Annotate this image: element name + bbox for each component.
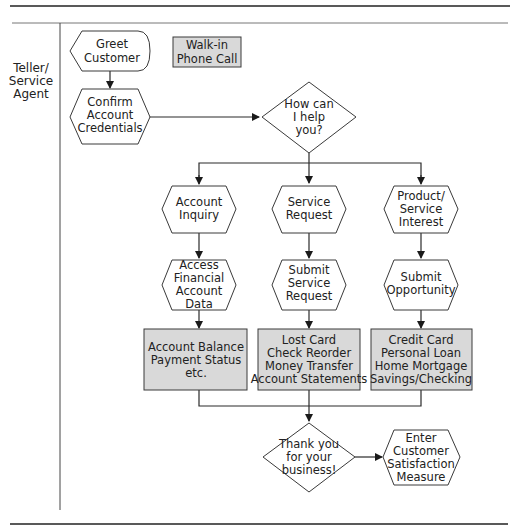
svg-text:ServiceRequest: ServiceRequest [286,195,333,222]
node-decision-how-can-i-help: How canI helpyou? [262,82,356,153]
node-confirm-credentials: ConfirmAccountCredentials [70,89,150,144]
svg-text:Thank youfor yourbusiness!: Thank youfor yourbusiness! [278,437,339,477]
svg-text:Teller/ServiceAgent: Teller/ServiceAgent [9,61,53,101]
svg-text:SubmitServiceRequest: SubmitServiceRequest [286,263,333,303]
lane-label: Teller/ServiceAgent [9,61,53,101]
node-greet-customer: GreetCustomer [70,31,150,71]
connectors [110,71,421,457]
box-account-inquiry-details: Account BalancePayment Statusetc. [144,329,247,390]
node-account-inquiry: AccountInquiry [162,186,236,233]
node-thank-you: Thank youfor yourbusiness! [263,423,355,492]
box-product-details: Credit CardPersonal LoanHome MortgageSav… [370,329,472,390]
node-submit-service-request: SubmitServiceRequest [272,260,346,310]
node-product-interest: Product/ServiceInterest [384,186,458,233]
svg-text:AccountInquiry: AccountInquiry [176,195,223,222]
node-access-account-data: AccessFinancialAccountData [162,258,236,311]
flowchart: Teller/ServiceAgent GreetCustomer Walk-i… [0,0,526,528]
box-service-request-details: Lost CardCheck ReorderMoney TransferAcco… [251,329,368,390]
node-submit-opportunity: SubmitOpportunity [384,260,458,310]
node-satisfaction-measure: EnterCustomerSatisfactionMeasure [383,430,460,485]
legend-channels: Walk-inPhone Call [173,37,241,67]
svg-text:Product/ServiceInterest: Product/ServiceInterest [397,189,445,229]
node-service-request: ServiceRequest [272,186,346,233]
